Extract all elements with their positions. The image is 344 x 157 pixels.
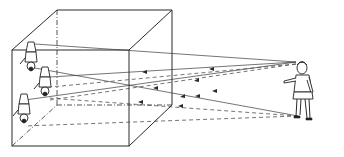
light-rays [25,44,298,126]
inverted-person-image-top [20,42,37,71]
arrow-icon [142,70,147,74]
person-foot [306,118,312,120]
person-leg-right [305,99,307,118]
ray-solid [35,44,296,62]
person-shorts [293,92,313,99]
ray-solid [25,62,296,100]
camera-obscura-diagram [0,0,344,157]
box-edge [129,10,172,50]
arrow-icon [138,100,143,104]
person-arm-left [284,78,296,83]
person-leg-left [296,99,297,116]
inverted-person-image-bottom [13,94,30,123]
ray-dashed [48,98,298,116]
person-head [297,62,307,74]
box-edge [129,105,172,146]
arrow-icon [212,89,217,93]
ray-arrows [138,67,217,108]
person-leg-left-inner [300,99,301,115]
standing-person [284,62,313,121]
person-foot [294,116,300,118]
ray-solid [35,68,298,116]
person-leg-right-outer [309,99,310,118]
ray-dashed [25,116,298,126]
inverted-person-image-middle [34,67,51,96]
